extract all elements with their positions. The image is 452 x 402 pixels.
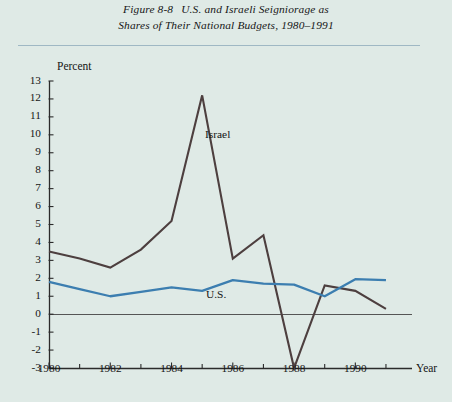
y-tick-label: -2	[15, 343, 41, 355]
x-axis-unit-label: Year	[416, 362, 437, 374]
x-tick-label: 1986	[210, 362, 256, 374]
y-tick-label: 7	[15, 181, 41, 193]
x-tick-label: 1990	[332, 362, 378, 374]
y-tick-label: 8	[15, 163, 41, 175]
y-tick-label: -1	[15, 325, 41, 337]
y-tick-label: 1	[15, 289, 41, 301]
y-tick-label: 5	[15, 217, 41, 229]
y-tick-label: 3	[15, 253, 41, 265]
x-tick-label: 1980	[26, 362, 72, 374]
y-tick-label: 6	[15, 199, 41, 211]
y-tick-label: 12	[15, 91, 41, 103]
axis-group	[49, 81, 413, 369]
y-tick-label: 2	[15, 271, 41, 283]
y-tick-label: 11	[15, 109, 41, 121]
x-tick-label: 1982	[87, 362, 133, 374]
y-tick-label: 10	[15, 127, 41, 139]
y-axis-unit-label: Percent	[57, 60, 91, 72]
y-tick-label: 13	[15, 74, 41, 86]
y-tick-label: 9	[15, 145, 41, 157]
y-tick-label: 0	[15, 307, 41, 319]
figure-container: Figure 8-8U.S. and Israeli Seigniorage a…	[0, 0, 452, 402]
y-tick-label: 4	[15, 235, 41, 247]
x-tick-label: 1988	[271, 362, 317, 374]
series-label-israel: Israel	[205, 128, 230, 140]
series-label-us: U.S.	[206, 288, 226, 300]
x-tick-label: 1984	[149, 362, 195, 374]
